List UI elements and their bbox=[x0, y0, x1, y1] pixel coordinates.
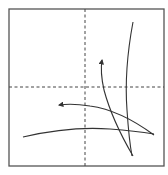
fold-diagram bbox=[0, 0, 168, 175]
